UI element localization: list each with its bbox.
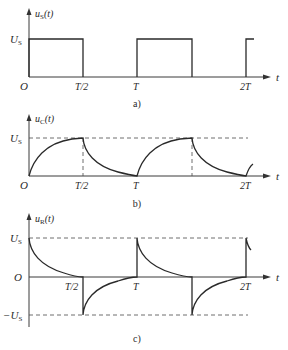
- panel-c-origin-label: O: [14, 271, 22, 283]
- panel-a-us-label: US: [10, 33, 22, 47]
- panel-b-x-arrow-icon: [263, 174, 271, 179]
- panel-b-x-label: t: [276, 170, 280, 182]
- panel-a-waveform: [29, 39, 254, 77]
- panel-c-us-label: US: [10, 232, 22, 246]
- panel-a-tick-half-t: T/2: [75, 81, 88, 92]
- panel-c-tick-t: T: [133, 281, 140, 292]
- panel-c-resistor-voltage: uR(t) t O US −US T/2 T 2T c): [3, 213, 280, 345]
- panel-b-tick-t: T: [133, 180, 140, 191]
- panel-b-tick-2t: 2T: [240, 180, 252, 191]
- panel-c-tick-2t: 2T: [240, 281, 252, 292]
- panel-a-x-arrow-icon: [263, 75, 271, 80]
- panel-a-tick-t: T: [133, 81, 140, 92]
- panel-b-y-arrow-icon: [27, 114, 32, 121]
- panel-b-waveform: [29, 138, 253, 176]
- panel-c-x-label: t: [276, 271, 280, 283]
- panel-a-y-arrow-icon: [27, 8, 32, 15]
- panel-a-x-label: t: [276, 71, 280, 83]
- panel-a-y-label: uS(t): [35, 8, 54, 21]
- panel-c-y-arrow-icon: [27, 213, 32, 220]
- panel-b-capacitor-voltage: uC(t) t O US T/2 T 2T b): [10, 113, 280, 210]
- panel-a-caption: a): [133, 98, 141, 110]
- panel-b-y-label: uC(t): [35, 113, 55, 126]
- panel-c-tick-half-t: T/2: [65, 281, 78, 292]
- panel-b-caption: b): [133, 198, 141, 210]
- panel-b-tick-half-t: T/2: [75, 180, 88, 191]
- panel-a-tick-2t: 2T: [240, 81, 252, 92]
- panel-c-y-label: uR(t): [35, 213, 55, 226]
- panel-c-neg-us-label: −US: [3, 309, 22, 323]
- rc-waveform-figure: uS(t) t O US T/2 T 2T a) uC(t) t O US T/…: [0, 0, 288, 350]
- panel-c-x-arrow-icon: [263, 275, 271, 280]
- panel-b-origin-label: O: [20, 179, 28, 191]
- panel-b-us-label: US: [10, 132, 22, 146]
- panel-a-origin-label: O: [20, 80, 28, 92]
- panel-c-caption: c): [133, 333, 141, 345]
- panel-a-square-wave: uS(t) t O US T/2 T 2T a): [10, 8, 280, 110]
